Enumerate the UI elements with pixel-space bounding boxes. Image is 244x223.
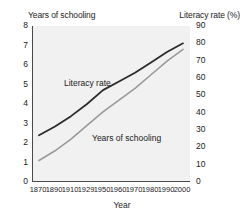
series-line-years-of-schooling (39, 49, 183, 160)
y-left-tick-5: 5 (8, 80, 28, 89)
y-right-tick-60: 60 (196, 73, 218, 82)
y-left-tick-7: 7 (8, 41, 28, 50)
x-tick-1890: 1890 (46, 185, 63, 194)
plot-svg (33, 26, 191, 182)
right-axis-title: Literacy rate (%) (179, 10, 240, 20)
series-line-literacy-rate (39, 43, 183, 135)
y-left-tick-6: 6 (8, 60, 28, 69)
y-right-tick-40: 40 (196, 108, 218, 117)
series-label-literacy-rate: Literacy rate (64, 78, 111, 88)
x-tick-1980: 1980 (142, 185, 159, 194)
y-right-tick-0: 0 (196, 177, 218, 186)
y-right-tick-90: 90 (196, 21, 218, 30)
y-right-tick-20: 20 (196, 142, 218, 151)
y-right-tick-30: 30 (196, 125, 218, 134)
x-tick-1960: 1960 (110, 185, 127, 194)
y-right-tick-10: 10 (196, 160, 218, 169)
y-left-tick-0: 0 (8, 177, 28, 186)
y-right-tick-50: 50 (196, 90, 218, 99)
y-left-tick-3: 3 (8, 119, 28, 128)
left-axis-title: Years of schooling (28, 10, 95, 20)
y-right-tick-80: 80 (196, 38, 218, 47)
y-left-tick-2: 2 (8, 138, 28, 147)
x-tick-1990: 1990 (158, 185, 175, 194)
x-axis-title: Year (0, 200, 244, 210)
y-left-tick-1: 1 (8, 158, 28, 167)
y-left-tick-8: 8 (8, 21, 28, 30)
y-right-tick-70: 70 (196, 56, 218, 65)
x-tick-1970: 1970 (126, 185, 143, 194)
x-tick-1870: 1870 (30, 185, 47, 194)
series-label-years-of-schooling: Years of schooling (92, 133, 161, 143)
x-tick-1950: 1950 (94, 185, 111, 194)
x-tick-1910: 1910 (62, 185, 79, 194)
x-tick-1929: 1929 (78, 185, 95, 194)
y-left-tick-4: 4 (8, 99, 28, 108)
x-tick-2000: 2000 (174, 185, 191, 194)
chart-figure: Years of schooling Literacy rate (%) 012… (0, 0, 244, 223)
plot-area (32, 26, 190, 182)
